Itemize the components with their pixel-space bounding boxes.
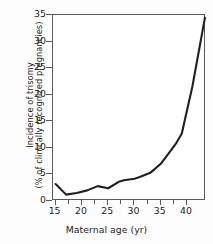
x-axis-minor-tick-mark xyxy=(94,200,95,204)
plot-area xyxy=(52,14,205,200)
data-series-polyline xyxy=(56,18,205,195)
y-axis-tick-label: 10 xyxy=(20,142,46,151)
x-axis-tick-label: 15 xyxy=(43,206,67,215)
y-axis-tick-label: 25 xyxy=(20,62,46,71)
x-axis-title: Maternal age (yr) xyxy=(0,224,213,235)
x-axis-minor-tick-mark xyxy=(68,200,69,204)
x-axis-minor-tick-mark xyxy=(120,200,121,204)
chart-figure: Incidence of trisomy (% of clinically re… xyxy=(0,0,213,244)
y-axis-tick-label: 35 xyxy=(20,9,46,18)
x-axis-minor-tick-mark xyxy=(173,200,174,204)
y-axis-tick-mark xyxy=(46,200,52,201)
trisomy-incidence-line xyxy=(53,15,206,201)
y-axis-tick-label: 0 xyxy=(20,195,46,204)
y-axis-tick-label: 20 xyxy=(20,89,46,98)
x-axis-tick-label: 40 xyxy=(174,206,198,215)
y-axis-tick-label: 15 xyxy=(20,115,46,124)
x-axis-tick-label: 35 xyxy=(148,206,172,215)
x-axis-tick-label: 25 xyxy=(95,206,119,215)
y-axis-tick-label: 5 xyxy=(20,168,46,177)
y-axis-tick-labels: 05101520253035 xyxy=(14,0,46,205)
x-axis-tick-label: 30 xyxy=(121,206,145,215)
y-axis-tick-label: 30 xyxy=(20,36,46,45)
x-axis-minor-tick-mark xyxy=(147,200,148,204)
x-axis-tick-label: 20 xyxy=(69,206,93,215)
